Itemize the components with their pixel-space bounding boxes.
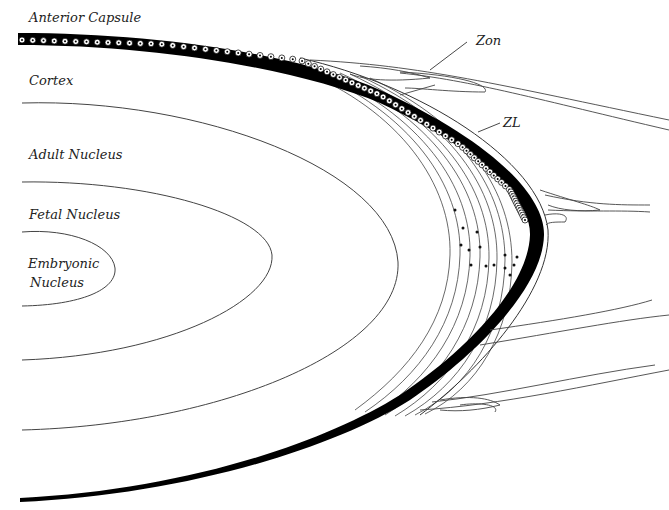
zonular-lamella [300, 58, 548, 415]
label-zonules: Zon [476, 33, 501, 49]
lens-diagram [0, 0, 669, 510]
label-fetal-nucleus: Fetal Nucleus [29, 207, 120, 223]
label-zonular-lamella: ZL [503, 115, 521, 131]
label-embryonic-nucleus-line2: Nucleus [30, 275, 84, 291]
zon-leader-line [430, 42, 467, 70]
cortical-fibers [300, 70, 512, 416]
label-embryonic-nucleus-line1: Embryonic [28, 256, 99, 272]
fiber-nuclei [454, 209, 519, 277]
zonular-fibers [310, 60, 669, 412]
label-adult-nucleus: Adult Nucleus [29, 147, 123, 163]
label-anterior-capsule: Anterior Capsule [29, 10, 141, 26]
zl-leader-line [478, 123, 500, 132]
label-cortex: Cortex [29, 73, 73, 89]
